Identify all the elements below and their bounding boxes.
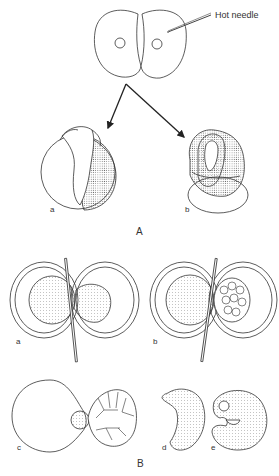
sublabel-b-d: d: [162, 443, 166, 452]
embryo-bc-dumbbell: [12, 380, 136, 452]
embryo-bd-curved: [162, 389, 205, 450]
sublabel-a-b: b: [185, 205, 189, 214]
sublabel-b-a: a: [16, 337, 20, 346]
sublabel-b-e: e: [211, 443, 215, 452]
embryo-figure: [0, 0, 279, 476]
sublabel-a-a: a: [50, 205, 54, 214]
sublabel-b-b: b: [153, 337, 157, 346]
panel-b-label: B: [137, 458, 144, 469]
embryo-be-curled: [212, 390, 267, 450]
panel-a-two-cell-egg: [94, 10, 211, 78]
panel-a-label: A: [136, 226, 143, 237]
arrows: [108, 84, 184, 137]
embryo-ba-ligated: [10, 258, 139, 362]
hot-needle-label: Hot needle: [215, 10, 259, 20]
embryo-bb-ligated: [150, 258, 277, 361]
embryo-a-half: [41, 127, 116, 210]
embryo-b-whole: [188, 130, 248, 213]
sublabel-b-c: c: [17, 443, 21, 452]
